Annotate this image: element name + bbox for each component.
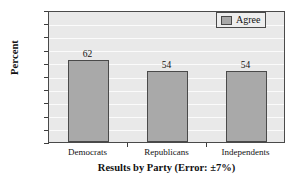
x-axis-title: Results by Party (Error: ±7%)	[48, 162, 285, 173]
legend-swatch-agree	[221, 16, 232, 25]
bar-republicans[interactable]	[147, 71, 188, 142]
x-tick-mark	[206, 143, 207, 147]
bar-chart: Percent 0102030405060708090100 625454 De…	[0, 0, 292, 180]
bar-value-label: 54	[226, 60, 266, 70]
bar-value-label: 62	[68, 49, 108, 59]
x-tick-label: Democrats	[43, 147, 133, 157]
plot-area	[48, 11, 285, 143]
x-tick-mark	[127, 143, 128, 147]
bar-value-label: 54	[147, 60, 187, 70]
legend[interactable]: Agree	[216, 12, 266, 28]
y-tick-mark	[44, 143, 49, 144]
bar-democrats[interactable]	[68, 60, 109, 142]
bar-independents[interactable]	[226, 71, 267, 142]
legend-label-agree: Agree	[236, 15, 260, 25]
x-tick-label: Republicans	[122, 147, 212, 157]
x-tick-label: Independents	[201, 147, 291, 157]
gridline	[49, 38, 284, 39]
y-axis-title: Percent	[9, 18, 20, 98]
